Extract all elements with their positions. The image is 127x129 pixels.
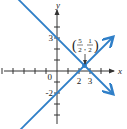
right-paren: ) (94, 38, 99, 54)
x-numerator: 5 (78, 37, 82, 45)
coordinate-plane: x y 0 2 3 3 -2 ( 5 2 , 1 2 ) (0, 0, 127, 129)
x-axis-label: x (117, 66, 122, 76)
y-axis-label: y (55, 0, 60, 10)
y-denominator: 2 (88, 46, 92, 54)
plotted-lines (3, 0, 112, 129)
comma: , (84, 43, 86, 52)
y-tick-label-3: 3 (49, 33, 54, 43)
left-paren: ( (72, 38, 77, 54)
intersection-point (82, 63, 87, 68)
y-tick-label-neg2: -2 (46, 88, 54, 98)
origin-label: 0 (48, 72, 53, 82)
x-tick-label-3: 3 (88, 76, 93, 86)
x-tick-label-2: 2 (77, 76, 82, 86)
x-denominator: 2 (78, 46, 82, 54)
y-numerator: 1 (88, 37, 92, 45)
intersection-label: ( 5 2 , 1 2 ) (72, 37, 99, 54)
